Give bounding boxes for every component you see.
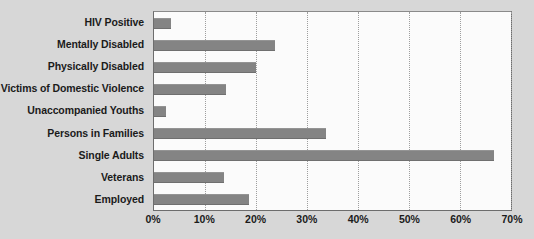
gridline [511,12,512,210]
tick-label: 0% [145,213,160,225]
bar-row [154,100,511,122]
value-axis: 0%10%20%30%40%50%60%70% [153,213,512,233]
category-label: Employed [0,194,149,205]
category-label: Veterans [0,172,149,183]
category-label: Physically Disabled [0,61,149,72]
tick-label: 30% [296,213,317,225]
bar [154,194,249,205]
bar-row [154,188,511,210]
bar-row [154,166,511,188]
bar [154,40,275,51]
category-label: Persons in Families [0,128,149,139]
bar-row [154,122,511,144]
tick-label: 10% [194,213,215,225]
category-label: Unaccompanied Youths [0,105,149,116]
category-label: HIV Positive [0,17,149,28]
bars-layer [154,12,511,210]
bar [154,18,171,29]
plot-area [153,11,512,211]
bar [154,172,224,183]
bar-row [154,56,511,78]
tick-label: 60% [450,213,471,225]
tick-label: 70% [501,213,522,225]
bar [154,128,326,139]
category-label: Single Adults [0,150,149,161]
bar-chart: HIV Positive Mentally Disabled Physicall… [0,0,534,239]
bar [154,62,256,73]
tick-label: 50% [399,213,420,225]
tick-label: 40% [348,213,369,225]
category-label: Victims of Domestic Violence [0,83,149,94]
tick-label: 20% [245,213,266,225]
bar [154,106,166,117]
category-axis: HIV Positive Mentally Disabled Physicall… [0,11,149,211]
bar-row [154,12,511,34]
bar-row [154,78,511,100]
bar [154,150,494,161]
category-label: Mentally Disabled [0,39,149,50]
bar [154,84,226,95]
bar-row [154,144,511,166]
bar-row [154,34,511,56]
